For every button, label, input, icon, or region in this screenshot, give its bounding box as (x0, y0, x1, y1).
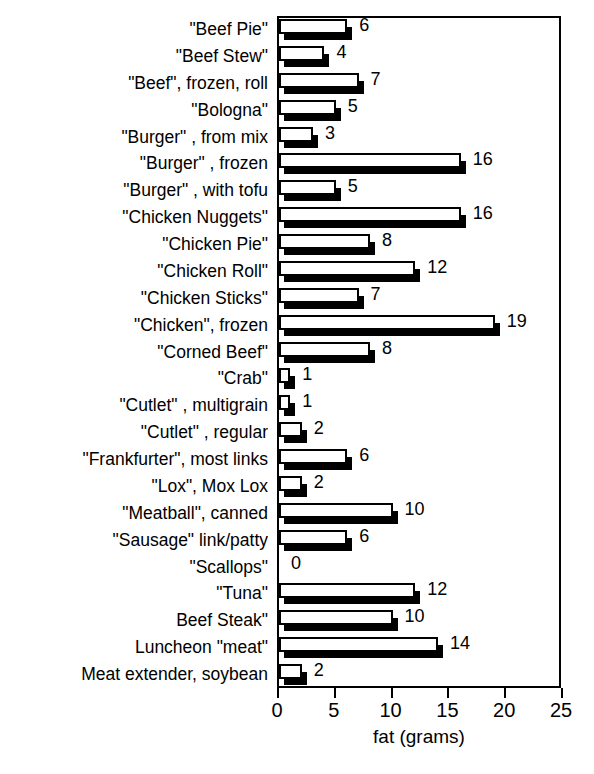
bar-face (279, 19, 347, 34)
category-label: "Burger" , from mix (0, 124, 268, 151)
category-label: "Meatball", canned (0, 500, 268, 527)
bar-value-label: 10 (405, 500, 425, 522)
category-label: "Tuna" (0, 580, 268, 607)
bar-value-label: 2 (314, 661, 324, 683)
category-label: "Beef Pie" (0, 16, 268, 43)
bar-row: "Lox", Mox Lox2 (0, 473, 594, 500)
bar-face (279, 422, 302, 437)
bar-face (279, 449, 347, 464)
category-label: "Chicken Nuggets" (0, 204, 268, 231)
bar (279, 530, 353, 552)
category-label: "Chicken Roll" (0, 258, 268, 285)
bar-value-label: 6 (359, 16, 369, 38)
bar-row: Beef Steak"10 (0, 607, 594, 634)
bar-row: Meat extender, soybean2 (0, 661, 594, 688)
bar-face (279, 637, 438, 652)
bar-value-label: 1 (302, 392, 312, 414)
bar-row: "Beef Stew"4 (0, 43, 594, 70)
bar-value-label: 10 (405, 607, 425, 629)
bar-value-label: 14 (450, 634, 470, 656)
bar-row: "Burger" , with tofu5 (0, 177, 594, 204)
bar-value-label: 19 (507, 312, 527, 334)
bar (279, 583, 421, 605)
bar-value-label: 8 (382, 339, 392, 361)
bar (279, 664, 308, 686)
bar-row: "Bologna"5 (0, 97, 594, 124)
category-label: "Cutlet" , multigrain (0, 392, 268, 419)
bar-face (279, 664, 302, 679)
bar-row: "Chicken Nuggets"16 (0, 204, 594, 231)
x-axis-tick-label: 20 (474, 697, 534, 723)
bar (279, 127, 319, 149)
bar-face (279, 100, 336, 115)
category-label: "Chicken Sticks" (0, 285, 268, 312)
bar-face (279, 610, 393, 625)
x-axis-tick-label: 10 (361, 697, 421, 723)
category-label: "Cutlet" , regular (0, 419, 268, 446)
bar-value-label: 4 (336, 43, 346, 65)
bar-face (279, 476, 302, 491)
bar (279, 449, 353, 471)
bar-row: "Tuna"12 (0, 580, 594, 607)
bar-face (279, 315, 495, 330)
bar (279, 46, 330, 68)
bar (279, 395, 296, 417)
category-label: Beef Steak" (0, 607, 268, 634)
bar-row: "Chicken Roll"12 (0, 258, 594, 285)
bar-value-label: 2 (314, 419, 324, 441)
category-label: "Corned Beef" (0, 339, 268, 366)
bar-value-label: 12 (427, 258, 447, 280)
category-label: "Scallops" (0, 554, 268, 581)
bar (279, 422, 308, 444)
bar-row: "Burger" , from mix3 (0, 124, 594, 151)
bar-row: "Beef Pie"6 (0, 16, 594, 43)
bar-row: "Cutlet" , multigrain1 (0, 392, 594, 419)
bar-face (279, 73, 359, 88)
bar-face (279, 180, 336, 195)
bar (279, 368, 296, 390)
bar (279, 153, 467, 175)
bar-value-label: 1 (302, 365, 312, 387)
bar-face (279, 46, 324, 61)
bar-row: "Corned Beef"8 (0, 339, 594, 366)
bar-face (279, 530, 347, 545)
bar-row: "Crab"1 (0, 365, 594, 392)
bar-row: "Frankfurter", most links6 (0, 446, 594, 473)
x-axis-tick-label: 0 (247, 697, 307, 723)
bar-row: "Beef", frozen, roll7 (0, 70, 594, 97)
bar-row: "Chicken Sticks"7 (0, 285, 594, 312)
bar (279, 610, 399, 632)
bar-value-label: 7 (371, 70, 381, 92)
bar-value-label: 3 (325, 124, 335, 146)
chart-container: VEGETARIAN CHOICES "Beef Pie"6"Beef Stew… (0, 0, 594, 774)
bar-row: "Scallops"0 (0, 554, 594, 581)
x-axis-title: fat (grams) (277, 726, 561, 748)
bar (279, 637, 444, 659)
bar-value-label: 0 (291, 554, 301, 576)
bar-face (279, 288, 359, 303)
bar (279, 315, 501, 337)
bar-value-label: 5 (348, 97, 358, 119)
bar (279, 180, 342, 202)
bar-face (279, 503, 393, 518)
bar-face (279, 153, 461, 168)
bar-row: "Cutlet" , regular2 (0, 419, 594, 446)
bar-value-label: 8 (382, 231, 392, 253)
bar (279, 100, 342, 122)
bar-value-label: 7 (371, 285, 381, 307)
bar-row: "Chicken", frozen19 (0, 312, 594, 339)
bar-value-label: 6 (359, 527, 369, 549)
category-label: "Bologna" (0, 97, 268, 124)
bar (279, 19, 353, 41)
bar (279, 288, 365, 310)
category-label: Luncheon "meat" (0, 634, 268, 661)
bar (279, 342, 376, 364)
bar-value-label: 12 (427, 580, 447, 602)
bar-face (279, 583, 415, 598)
bar-row: "Meatball", canned10 (0, 500, 594, 527)
x-axis-tick-labels: 0510152025 (0, 697, 594, 723)
bar-face (279, 368, 290, 383)
category-label: "Crab" (0, 365, 268, 392)
category-label: "Chicken Pie" (0, 231, 268, 258)
bar-face (279, 127, 313, 142)
